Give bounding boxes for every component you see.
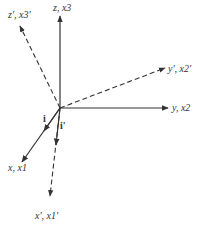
- y-prime-axis: [60, 68, 165, 108]
- i-vector-label: i: [43, 114, 46, 124]
- x-axis-label: x, x1: [8, 163, 27, 173]
- z-prime-axis: [20, 26, 60, 108]
- i-prime-vector-label: i': [60, 121, 66, 131]
- z-axis-label: z, x3: [53, 3, 71, 13]
- axes-diagram: [0, 0, 198, 228]
- x-prime-axis-label: x', x1': [35, 211, 58, 221]
- y-prime-axis-label: y', x2': [168, 64, 191, 74]
- z-prime-axis-label: z', x3': [8, 10, 31, 20]
- y-axis-label: y, x2: [172, 103, 190, 113]
